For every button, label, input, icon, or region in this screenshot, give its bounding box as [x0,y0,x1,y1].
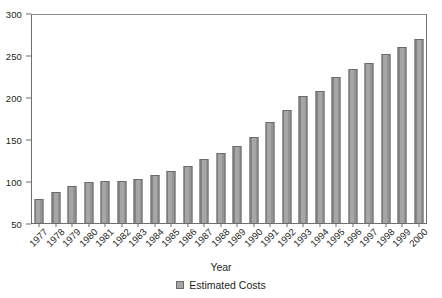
y-tick-label: 50 [11,219,22,230]
bar-1986[interactable] [183,166,192,224]
bar-1987[interactable] [200,159,209,224]
bar-slot [246,14,263,224]
y-tick-label: 200 [6,93,22,104]
bar-slot [31,14,48,224]
bar-slot [114,14,131,224]
bar-1992[interactable] [282,110,291,224]
bar-slot [163,14,180,224]
bar-1981[interactable] [101,181,110,224]
bar-1996[interactable] [348,69,357,224]
bar-1985[interactable] [167,171,176,224]
bar-1979[interactable] [68,186,77,224]
bar-chart: 50100150200250300 1977197819791980198119… [0,0,442,298]
bar-slot [361,14,378,224]
bar-slot [97,14,114,224]
bar-1978[interactable] [51,192,60,224]
bar-1977[interactable] [35,199,44,224]
bar-slot [64,14,81,224]
bar-slot [394,14,411,224]
bar-2000[interactable] [414,39,423,224]
bar-1997[interactable] [365,63,374,224]
bar-1989[interactable] [233,146,242,224]
y-tick-label: 150 [6,135,22,146]
bar-slot [345,14,362,224]
bar-1983[interactable] [134,179,143,224]
bar-slot [147,14,164,224]
bar-slot [180,14,197,224]
bar-slot [130,14,147,224]
bar-1995[interactable] [332,77,341,224]
bar-1988[interactable] [216,153,225,224]
x-axis-title: Year [0,261,442,273]
chart-legend: Estimated Costs [0,279,442,291]
bar-slot [411,14,428,224]
bar-1994[interactable] [315,91,324,224]
bar-1998[interactable] [381,54,390,224]
bars-layer [31,14,427,224]
bar-slot [48,14,65,224]
bar-slot [213,14,230,224]
bar-slot [196,14,213,224]
bar-1990[interactable] [249,137,258,224]
bar-1982[interactable] [117,181,126,224]
bar-slot [378,14,395,224]
x-tick-label-2000: 2000 [407,226,430,249]
legend-label-estimated-costs: Estimated Costs [189,279,265,291]
bar-1980[interactable] [84,182,93,224]
y-axis: 50100150200250300 [0,0,31,240]
bar-1999[interactable] [398,47,407,224]
y-tick-label: 300 [6,9,22,20]
bar-slot [279,14,296,224]
bar-1993[interactable] [299,96,308,224]
bar-1984[interactable] [150,175,159,224]
bar-slot [81,14,98,224]
bar-slot [229,14,246,224]
bar-slot [262,14,279,224]
bar-slot [328,14,345,224]
bar-slot [312,14,329,224]
legend-swatch-estimated-costs [176,281,184,289]
bar-1991[interactable] [266,122,275,224]
bar-slot [295,14,312,224]
y-tick-label: 100 [6,177,22,188]
y-tick-label: 250 [6,51,22,62]
